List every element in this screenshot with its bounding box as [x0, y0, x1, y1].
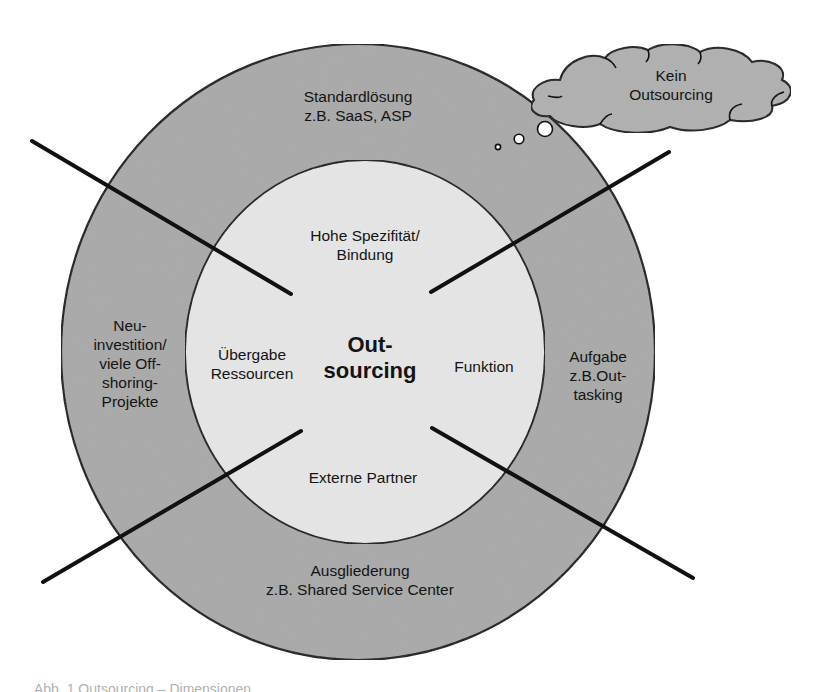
inner-label-right: Funktion — [434, 357, 534, 376]
inner-label-bottom: Externe Partner — [278, 468, 448, 487]
thought-bubble-large — [538, 122, 553, 137]
outer-label-left: Neu- investition/ viele Off- shoring- Pr… — [74, 316, 186, 411]
inner-label-left: Übergabe Ressourcen — [192, 345, 312, 383]
center-label: Out- sourcing — [300, 332, 440, 384]
thought-bubble-medium — [514, 134, 524, 144]
figure-caption: Abb. 1 Outsourcing – Dimensionen — [34, 682, 394, 692]
thought-bubble-small — [495, 144, 500, 149]
outer-label-bottom: Ausgliederung z.B. Shared Service Center — [200, 561, 520, 599]
outer-label-top: Standardlösung z.B. SaaS, ASP — [238, 87, 478, 125]
inner-label-top: Hohe Spezifität/ Bindung — [270, 226, 460, 264]
cloud-label: Kein Outsourcing — [596, 66, 746, 104]
outer-label-right: Aufgabe z.B.Out- tasking — [548, 347, 648, 404]
